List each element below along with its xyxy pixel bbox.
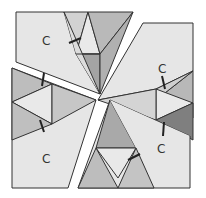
puzzle-diagram: C C C C xyxy=(0,0,206,198)
hinge-icon xyxy=(163,122,164,136)
puzzle-svg: C C C C xyxy=(0,0,206,198)
piece-label-top-right: C xyxy=(158,62,166,76)
piece-label-bottom-right: C xyxy=(157,142,165,156)
piece-label-top-left: C xyxy=(42,34,50,48)
piece-label-bottom-left: C xyxy=(42,152,50,166)
